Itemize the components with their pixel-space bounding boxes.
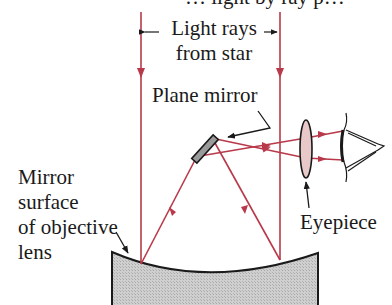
objective-label-line2: surface bbox=[18, 190, 118, 215]
eyepiece-label: Eyepiece bbox=[300, 210, 377, 234]
objective-pointer bbox=[116, 232, 128, 253]
plane-mirror-pointer bbox=[228, 111, 270, 137]
light-rays-label-line2: from star bbox=[159, 41, 269, 66]
light-rays-label-line1: Light rays bbox=[159, 16, 269, 41]
eye-icon bbox=[341, 113, 384, 182]
objective-label-line4: lens bbox=[18, 240, 118, 265]
plane-mirror bbox=[192, 135, 219, 163]
eyepiece-pointer bbox=[306, 182, 309, 208]
objective-mirror-label: Mirror surface of objective lens bbox=[18, 165, 118, 265]
eyepiece-rays bbox=[200, 131, 343, 162]
eyepiece-lens bbox=[300, 120, 312, 178]
objective-label-line1: Mirror bbox=[18, 165, 118, 190]
plane-mirror-label: Plane mirror bbox=[152, 83, 258, 107]
telescope-diagram: … light by ray p… Light rays from star P… bbox=[0, 0, 392, 305]
reflected-rays bbox=[141, 143, 280, 264]
caption-partial: … light by ray p… bbox=[185, 0, 345, 9]
objective-label-line3: of objective bbox=[18, 215, 118, 240]
light-rays-label: Light rays from star bbox=[159, 16, 269, 66]
